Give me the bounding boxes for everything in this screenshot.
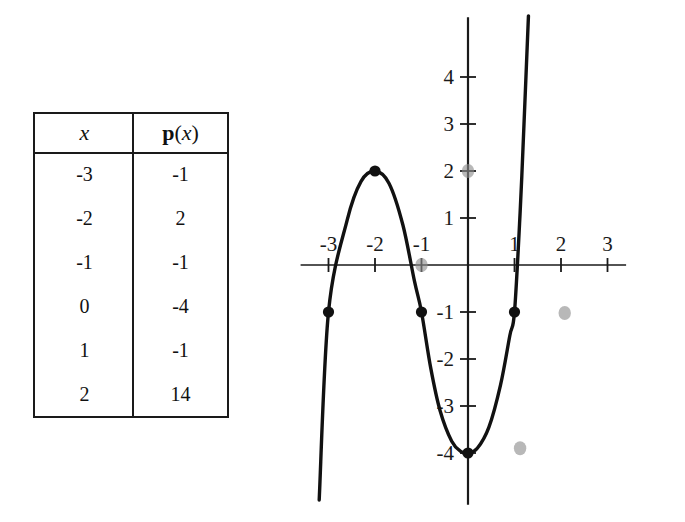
table-row: -22 [35,196,227,240]
data-point--3--1 [323,306,334,317]
scan-smudge-0-2-blob [462,164,474,178]
x-tick-label--1: -1 [413,232,431,256]
x-tick-label-3: 3 [602,232,613,256]
table-column-divider [132,114,134,416]
cell-px: 2 [134,196,227,240]
cell-x: 2 [35,372,134,416]
table-header-divider [35,152,227,154]
table-row: 214 [35,372,227,416]
cell-px: -1 [134,328,227,372]
cell-px: -1 [134,152,227,196]
scan-smudge-2-neg4-blob [514,441,526,455]
scan-smudge-2-neg1 [559,306,571,320]
scan-smudge-0-2 [462,164,474,178]
cell-px: -1 [134,240,227,284]
data-point--2-2 [369,165,380,176]
table-row: -3-1 [35,152,227,196]
coordinate-plane: -3-2-11234321-1-2-3-4 [255,0,685,522]
y-tick-label-1: 1 [444,206,455,230]
axes-layer [301,17,626,505]
cell-px: -4 [134,284,227,328]
graph-panel: -3-2-11234321-1-2-3-4 [255,0,685,522]
x-tick-label--2: -2 [366,232,384,256]
y-tick-label--2: -2 [437,347,455,371]
table-body: -3-1-22-1-10-41-1214 [35,152,227,416]
scan-smudge-2-neg4 [514,441,526,455]
y-tick-label-4: 4 [444,65,455,89]
data-point-0--4 [462,447,473,458]
table-row: 1-1 [35,328,227,372]
cell-px: 14 [134,372,227,416]
scan-smudge-neg1-0-blob [415,258,427,272]
column-header-x: x [35,114,134,152]
scan-smudge-2-neg1-blob [559,306,571,320]
cell-x: -3 [35,152,134,196]
y-tick-label-2: 2 [444,159,455,183]
data-point-1--1 [509,306,520,317]
polynomial-curve [319,16,528,500]
y-tick-label--1: -1 [437,300,455,324]
x-tick-label-2: 2 [556,232,567,256]
table-row: -1-1 [35,240,227,284]
cell-x: 0 [35,284,134,328]
table-of-values: x p(x) -3-1-22-1-10-41-1214 [33,112,229,418]
scan-smudge-neg1-0 [415,258,427,272]
table-row: 0-4 [35,284,227,328]
values-table-grid: x p(x) -3-1-22-1-10-41-1214 [35,114,227,416]
table-header-row: x p(x) [35,114,227,152]
x-tick-label--3: -3 [320,232,338,256]
polynomial-curve-layer [319,16,528,500]
cell-x: 1 [35,328,134,372]
plotted-points-layer [323,165,520,458]
cell-x: -1 [35,240,134,284]
data-point--1--1 [416,306,427,317]
column-header-px: p(x) [134,114,227,152]
y-tick-label-3: 3 [444,112,455,136]
cell-x: -2 [35,196,134,240]
